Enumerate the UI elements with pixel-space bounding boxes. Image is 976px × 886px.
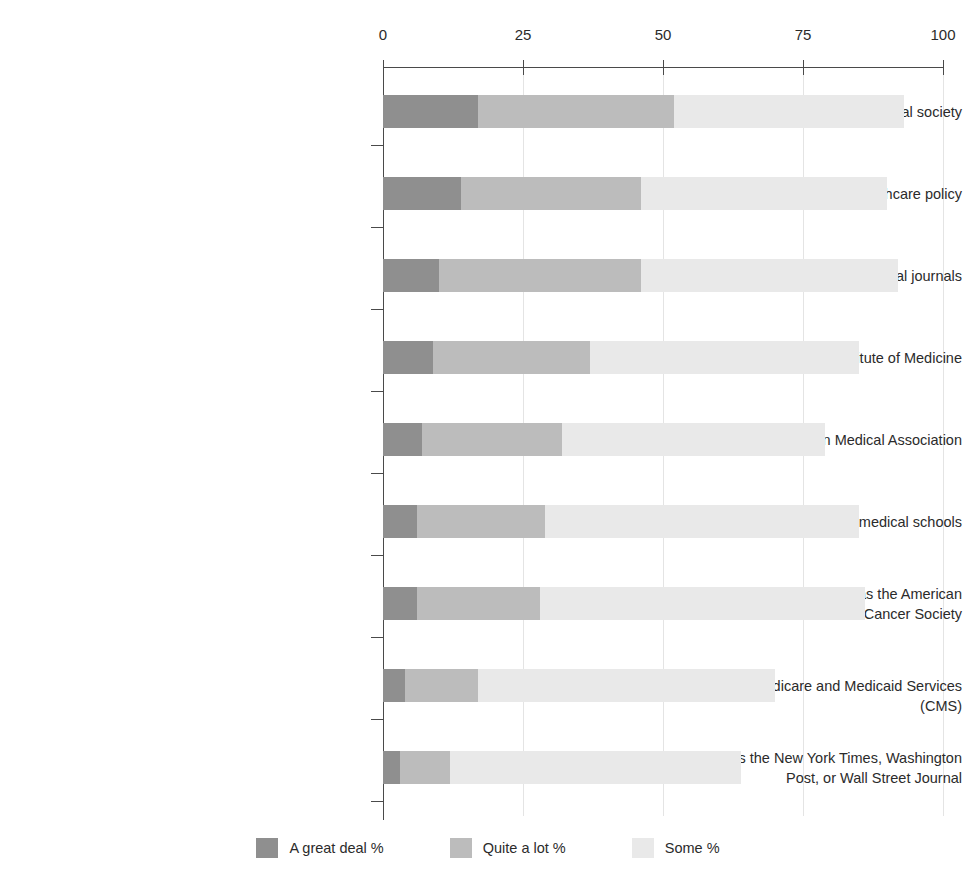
bar-segment (461, 177, 640, 210)
bar-segment (383, 341, 433, 374)
bar-segment (641, 177, 887, 210)
bar-segment (383, 423, 422, 456)
legend-item[interactable]: Some % (632, 838, 720, 858)
bar-row (383, 751, 741, 784)
legend-item[interactable]: Quite a lot % (450, 838, 566, 858)
x-axis-tick-label: 50 (655, 26, 672, 43)
bar-row (383, 587, 865, 620)
x-axis-tick-label: 75 (795, 26, 812, 43)
bar-segment (478, 669, 775, 702)
y-axis-tick (371, 555, 384, 556)
y-axis-tick (371, 391, 384, 392)
legend-label: A great deal % (289, 840, 383, 856)
bar-segment (383, 259, 439, 292)
bar-segment (383, 505, 417, 538)
legend-item[interactable]: A great deal % (256, 838, 383, 858)
bar-segment (433, 341, 590, 374)
legend-swatch (450, 838, 472, 858)
x-axis-tick-label: 25 (515, 26, 532, 43)
y-axis-tick (371, 227, 384, 228)
legend-swatch (632, 838, 654, 858)
y-axis-tick (371, 719, 384, 720)
bar-segment (478, 95, 674, 128)
legend-label: Some % (665, 840, 720, 856)
chart-legend: A great deal %Quite a lot %Some % (0, 838, 976, 858)
bar-segment (540, 587, 865, 620)
stacked-bar-chart: 0255075100 Leaders of your professional … (0, 0, 976, 886)
bar-segment (545, 505, 859, 538)
bar-row (383, 505, 859, 538)
bar-segment (383, 669, 405, 702)
bar-row (383, 423, 825, 456)
y-axis-tick (371, 473, 384, 474)
bar-row (383, 177, 887, 210)
bar-row (383, 341, 859, 374)
x-axis-tick-label: 0 (379, 26, 387, 43)
x-axis-tick (383, 60, 384, 75)
legend-swatch (256, 838, 278, 858)
bar-segment (674, 95, 904, 128)
x-axis-tick (943, 60, 944, 75)
y-axis-tick (371, 637, 384, 638)
y-axis-tick (371, 309, 384, 310)
bar-segment (439, 259, 641, 292)
x-axis-tick-label: 100 (930, 26, 955, 43)
y-axis-tick (371, 145, 384, 146)
bar-segment (450, 751, 741, 784)
bar-segment (422, 423, 562, 456)
x-axis-tick (523, 60, 524, 75)
bar-row (383, 669, 775, 702)
bar-segment (562, 423, 825, 456)
x-axis-tick (803, 60, 804, 75)
bar-segment (383, 587, 417, 620)
bar-segment (417, 505, 546, 538)
bar-segment (400, 751, 450, 784)
bar-segment (641, 259, 899, 292)
legend-label: Quite a lot % (483, 840, 566, 856)
bar-segment (383, 177, 461, 210)
bar-segment (590, 341, 859, 374)
y-axis-tick (371, 801, 384, 802)
bar-segment (383, 751, 400, 784)
bar-row (383, 95, 904, 128)
bar-segment (417, 587, 540, 620)
x-axis-tick (663, 60, 664, 75)
bar-segment (405, 669, 478, 702)
bar-segment (383, 95, 478, 128)
bar-row (383, 259, 898, 292)
